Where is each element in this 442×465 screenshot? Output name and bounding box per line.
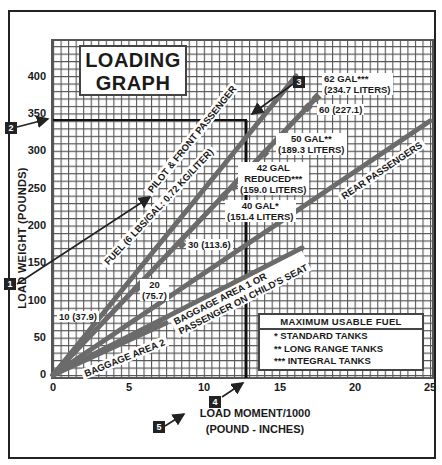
fuel-label-20-liters: (75.7): [142, 290, 167, 301]
fuel-label-42-reduced: REDUCED***: [240, 173, 307, 184]
fuel-label-62: 62 GAL*** (234.7 LITERS): [322, 73, 393, 95]
y-tick: 50: [20, 331, 46, 343]
fuel-label-40-liters: (151.4 LITERS): [227, 211, 294, 222]
fuel-label-30: 30 (113.6): [186, 239, 233, 250]
legend-item-integral: *** INTEGRAL TANKS: [260, 355, 422, 368]
fuel-label-40: 40 GAL* (151.4 LITERS): [225, 200, 296, 222]
x-tick: 20: [343, 381, 367, 393]
fuel-label-60: 60 (227.1): [317, 104, 364, 115]
x-tick: 10: [192, 381, 216, 393]
y-tick: 200: [20, 219, 46, 231]
y-tick: 250: [20, 182, 46, 194]
callout-2: 2: [5, 122, 17, 134]
x-axis-label-line-2: (POUND - INCHES): [150, 421, 360, 437]
x-tick: 15: [268, 381, 292, 393]
fuel-label-10: 10 (37.9): [57, 311, 99, 322]
legend-title: MAXIMUM USABLE FUEL: [260, 315, 422, 330]
callout-5: 5: [153, 421, 165, 433]
title-line-1: LOADING: [81, 49, 185, 72]
x-axis-label-line-1: LOAD MOMENT/1000: [150, 405, 360, 421]
x-tick: 25: [418, 381, 442, 393]
callout-4: 4: [209, 396, 221, 408]
fuel-label-42-gal: 42 GAL: [240, 162, 307, 173]
fuel-label-42-liters: (159.0 LITERS): [240, 184, 307, 195]
x-axis-label: LOAD MOMENT/1000 (POUND - INCHES): [150, 405, 360, 437]
arrow-2: [17, 119, 48, 127]
fuel-label-42: 42 GAL REDUCED*** (159.0 LITERS): [238, 162, 309, 195]
x-tick: 0: [41, 381, 65, 393]
y-tick: 400: [20, 70, 46, 82]
fuel-label-40-gal: 40 GAL*: [227, 200, 294, 211]
title-line-2: GRAPH: [81, 72, 185, 95]
y-tick: 300: [20, 144, 46, 156]
y-tick: 150: [20, 256, 46, 268]
fuel-label-20: 20 (75.7): [140, 279, 169, 301]
fuel-label-50-gal: 50 GAL**: [278, 133, 345, 144]
legend-item-standard: * STANDARD TANKS: [260, 330, 422, 343]
fuel-label-20-gal: 20: [142, 279, 167, 290]
x-tick: 5: [117, 381, 141, 393]
chart-plot: [0, 0, 442, 465]
fuel-label-50: 50 GAL** (189.3 LITERS): [276, 133, 347, 155]
callout-3: 3: [293, 76, 305, 88]
y-tick: 350: [20, 107, 46, 119]
fuel-label-62-gal: 62 GAL***: [324, 73, 391, 84]
chart-title: LOADING GRAPH: [79, 45, 187, 96]
fuel-label-62-liters: (234.7 LITERS): [324, 84, 391, 95]
arrow-4: [222, 383, 243, 397]
fuel-label-50-liters: (189.3 LITERS): [278, 144, 345, 155]
legend: MAXIMUM USABLE FUEL * STANDARD TANKS ** …: [258, 313, 424, 371]
y-tick: 0: [20, 368, 46, 380]
legend-item-long-range: ** LONG RANGE TANKS: [260, 343, 422, 356]
callout-1: 1: [4, 278, 16, 290]
y-tick: 100: [20, 294, 46, 306]
